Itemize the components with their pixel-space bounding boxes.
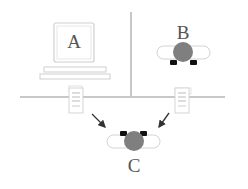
node-b-label: B [173,23,193,42]
right-document-icon [175,88,189,113]
robot-c-icon [107,131,160,151]
robot-b-icon [157,42,210,65]
node-c-label: C [124,156,144,175]
node-a-label: A [64,32,84,51]
arrow-right-to-c [159,113,169,127]
arrow-left-to-c [92,114,105,127]
left-document-icon [69,88,83,113]
